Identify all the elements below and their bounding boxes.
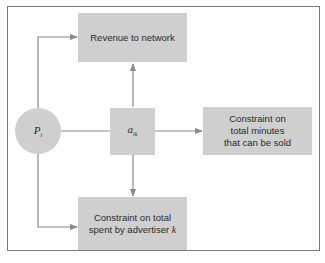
minutes-constraint-line-3: that can be sold xyxy=(224,137,291,149)
price-node: Pi xyxy=(15,108,61,154)
edge-price-advertiser xyxy=(38,154,77,227)
edge-price-revenue xyxy=(38,37,77,108)
minutes-constraint-node: Constraint on total minutes that can be … xyxy=(203,107,312,155)
advertiser-constraint-line-1: Constraint on total xyxy=(89,212,176,224)
advertiser-constraint-node: Constraint on total spent by advertiser … xyxy=(78,197,187,250)
price-symbol: Pi xyxy=(34,124,42,138)
allocation-symbol: aik xyxy=(128,123,138,140)
minutes-constraint-line-1: Constraint on xyxy=(224,113,291,125)
advertiser-constraint-line-2: spent by advertiser k xyxy=(89,224,176,236)
minutes-constraint-line-2: total minutes xyxy=(224,125,291,137)
revenue-label: Revenue to network xyxy=(90,32,175,44)
revenue-node: Revenue to network xyxy=(78,13,187,62)
allocation-node: aik xyxy=(110,108,155,155)
